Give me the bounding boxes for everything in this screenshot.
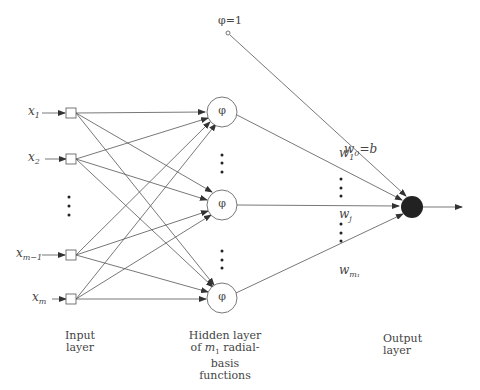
input-label-xm-1: xm−1: [16, 246, 42, 262]
output-layer-label: Output layer: [383, 333, 433, 357]
output-node: [401, 196, 423, 218]
bias-node: [226, 31, 230, 35]
weight-label-wm1: wm₁: [339, 263, 360, 279]
bias-label: φ=1: [218, 14, 242, 27]
hidden-layer-label: Hidden layer of m1 radial- basis functio…: [180, 330, 270, 382]
phi-symbol-j: φ: [207, 197, 237, 210]
input-node-2: [66, 154, 76, 164]
phi-symbol-m1: φ: [207, 290, 237, 303]
input-label-x1: x1: [28, 104, 40, 120]
input-label-x2: x2: [28, 150, 40, 166]
phi-symbol-1: φ: [207, 104, 237, 117]
weight-label-w1: w1: [339, 146, 354, 162]
input-node-m: [66, 294, 76, 304]
input-node-m-1: [66, 250, 76, 260]
input-label-xm: xm: [32, 290, 46, 306]
weight-label-wj: wj: [339, 207, 352, 223]
input-layer-label: Input layer: [55, 330, 105, 354]
input-node-1: [66, 108, 76, 118]
